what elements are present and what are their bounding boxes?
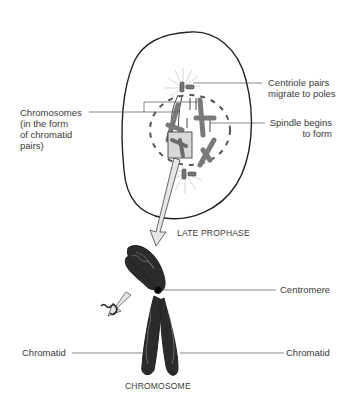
spindle-label-line1: Spindle begins [266, 117, 332, 128]
chromosomes-label-line2: (in the form [20, 118, 82, 129]
chromatid-right-label: Chromatid [286, 347, 330, 358]
spindle-label-line2: to form [266, 128, 332, 139]
unwind-arrow [108, 292, 131, 316]
zoom-arrow [150, 158, 180, 246]
spindle-label: Spindle begins to form [266, 117, 332, 139]
chromosomes-label-line1: Chromosomes [20, 107, 82, 118]
chromatid-left-label: Chromatid [22, 347, 66, 358]
chromosomes-label-line3: of chromatid [20, 129, 82, 140]
chromosomes-label: Chromosomes (in the form of chromatid pa… [20, 107, 82, 151]
chromosomes-label-line4: pairs) [20, 140, 82, 151]
centriole-label: Centriole pairs migrate to poles [268, 77, 336, 99]
centriole-label-line1: Centriole pairs [268, 77, 336, 88]
centriole-top [165, 68, 200, 96]
figure-label: CHROMOSOME [125, 381, 191, 392]
centriole-label-line2: migrate to poles [268, 88, 336, 99]
diagram-canvas [0, 0, 348, 393]
stage-label: LATE PROPHASE [177, 228, 250, 239]
centromere-label: Centromere [280, 284, 330, 295]
leader-lines-chromosome [72, 290, 284, 353]
